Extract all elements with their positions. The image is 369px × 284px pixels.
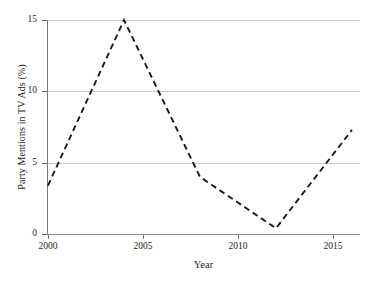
line-chart-figure: 15 10 5 0 2000 2005 2010 2015 Party Ment… <box>0 0 369 284</box>
series-layer <box>0 0 369 284</box>
data-series-line <box>48 20 352 228</box>
